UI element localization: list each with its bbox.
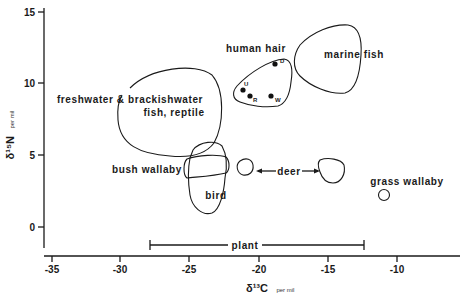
bush-wallaby-region <box>184 155 229 178</box>
bush-wallaby-label: bush wallaby <box>112 164 182 175</box>
point-W <box>268 93 273 98</box>
y-tick-label: 0 <box>29 222 35 233</box>
y-label-main: δ¹⁵N <box>4 136 16 160</box>
freshwater-fish-label-line1: freshwater & brackishwater <box>57 94 203 105</box>
y-tick-label: 5 <box>29 150 35 161</box>
grass-wallaby-region <box>379 190 390 201</box>
bird-region <box>189 142 227 213</box>
grass-wallaby-label: grass wallaby <box>370 176 443 187</box>
arrow-left-icon <box>256 169 262 174</box>
x-tick-label: -30 <box>113 264 128 275</box>
point-R-label: R <box>253 97 258 103</box>
y-tick-label: 15 <box>24 7 36 18</box>
point-W-label: W <box>275 97 281 103</box>
point-U-label: U <box>244 81 249 87</box>
x-tick-label: -35 <box>45 264 60 275</box>
x-tick-label: -25 <box>182 264 197 275</box>
y-axis-label: δ¹⁵N per mil <box>0 111 17 160</box>
point-R <box>247 93 252 98</box>
point-D <box>272 61 277 66</box>
deer-label: deer <box>277 166 301 177</box>
x-axis-label: δ¹³C per mil <box>246 278 294 295</box>
svg-text:δ¹⁵N per mil: δ¹⁵N per mil <box>0 111 17 160</box>
marine-fish-label: marine fish <box>324 49 384 60</box>
x-label-main: δ¹³C <box>246 282 268 294</box>
isotope-chart: 15 10 5 0 δ¹⁵N per mil -35 -30 -25 -20 -… <box>0 0 465 298</box>
freshwater-fish-label-line2: fish, reptile <box>143 107 204 118</box>
point-D-label: D <box>280 58 285 64</box>
x-tick-label: -10 <box>390 264 405 275</box>
human-hair-label: human hair <box>226 43 286 54</box>
x-label-unit: per mil <box>276 287 294 293</box>
point-U <box>240 87 245 92</box>
plant-label: plant <box>232 240 259 251</box>
human-hair-region <box>234 59 292 107</box>
deer-region-2 <box>319 159 345 183</box>
deer-region-1 <box>237 159 253 175</box>
bird-label: bird <box>205 190 226 201</box>
y-label-unit: per mil <box>9 111 15 129</box>
x-tick-label: -20 <box>252 264 267 275</box>
y-tick-label: 10 <box>24 78 36 89</box>
x-tick-label: -15 <box>321 264 336 275</box>
